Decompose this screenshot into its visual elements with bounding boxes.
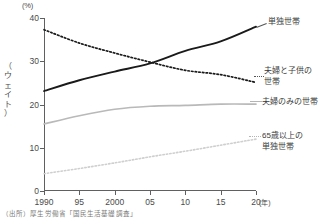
series-line — [44, 27, 256, 91]
series-line — [44, 139, 256, 174]
x-tick — [185, 191, 186, 195]
source-note: （出所）厚生労働省「国民生活基礎調査」 — [2, 208, 137, 218]
x-tick — [44, 191, 45, 195]
x-tick — [221, 191, 222, 195]
series-line — [44, 104, 256, 124]
legend-label-couple-only: 夫婦のみの世帯 — [262, 97, 318, 108]
leader-line-couple-with-children — [254, 76, 264, 77]
leader-line-elderly-single — [249, 136, 261, 137]
legend-label-single-household: 単独世帯 — [268, 17, 300, 28]
y-tick-label: 0 — [34, 186, 39, 196]
x-tick — [150, 191, 151, 195]
x-tick — [256, 191, 257, 195]
series-line — [44, 30, 256, 83]
x-axis-unit-label: (年) — [259, 197, 271, 207]
x-tick-label: 15 — [216, 197, 225, 207]
y-axis-unit-label: (%) — [22, 1, 33, 10]
y-tick-label: 30 — [30, 56, 39, 66]
y-tick-label: 20 — [30, 100, 39, 110]
x-tick — [115, 191, 116, 195]
plot-area: 010203040 199095200005101520 — [44, 18, 256, 191]
series-lines — [44, 18, 256, 191]
x-tick-label: 05 — [145, 197, 154, 207]
leader-line-couple-only — [250, 101, 262, 102]
x-tick-label: 95 — [75, 197, 84, 207]
x-tick — [79, 191, 80, 195]
household-composition-line-chart: (%) （ ウ ェ イ ト ） 010203040 19909520000510… — [0, 0, 332, 219]
y-tick-label: 10 — [30, 143, 39, 153]
x-tick-label: 2000 — [105, 197, 124, 207]
legend-label-couple-with-children: 夫婦と子供の 世帯 — [264, 66, 312, 87]
y-tick-label: 40 — [30, 13, 39, 23]
x-tick-label: 10 — [181, 197, 190, 207]
leader-line-single — [256, 23, 267, 28]
y-axis-title: （ ウ ェ イ ト ） — [1, 62, 15, 118]
legend-label-elderly-single: 65歳以上の 単独世帯 — [262, 131, 303, 152]
x-tick-label: 1990 — [35, 197, 54, 207]
